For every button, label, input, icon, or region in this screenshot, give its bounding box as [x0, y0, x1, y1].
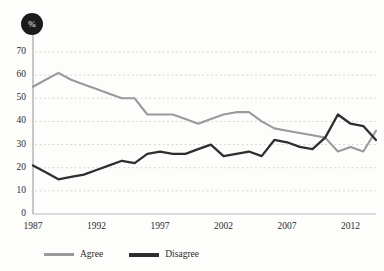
x-tick-label: 1987 [10, 222, 56, 232]
x-tick-label: 2012 [328, 222, 374, 232]
chart-legend: Agree Disagree [44, 250, 199, 260]
percent-badge: % [21, 13, 43, 35]
y-tick-label: 70 [2, 47, 26, 57]
legend-swatch-disagree-icon [129, 253, 159, 257]
series-lines [33, 73, 376, 179]
x-tick-label: 2002 [201, 222, 247, 232]
y-tick-label: 20 [2, 163, 26, 173]
y-tick-label: 60 [2, 70, 26, 80]
y-tick-label: 40 [2, 116, 26, 126]
legend-label-disagree: Disagree [165, 250, 199, 260]
x-tick-label: 1992 [74, 222, 120, 232]
y-tick-label: 30 [2, 140, 26, 150]
x-tick-label: 2007 [264, 222, 310, 232]
legend-swatch-agree-icon [44, 253, 74, 256]
axis-lines [33, 24, 376, 214]
legend-label-agree: Agree [80, 250, 103, 260]
legend-item-agree: Agree [44, 250, 103, 260]
legend-item-disagree: Disagree [129, 250, 199, 260]
chart-plot-area [0, 0, 384, 271]
y-tick-label: 50 [2, 93, 26, 103]
y-tick-label: 10 [2, 186, 26, 196]
line-chart: % 010203040506070 1987199219972002200720… [0, 0, 384, 271]
series-line-disagree [33, 114, 376, 179]
x-tick-label: 1997 [137, 222, 183, 232]
y-tick-label: 0 [2, 209, 26, 219]
